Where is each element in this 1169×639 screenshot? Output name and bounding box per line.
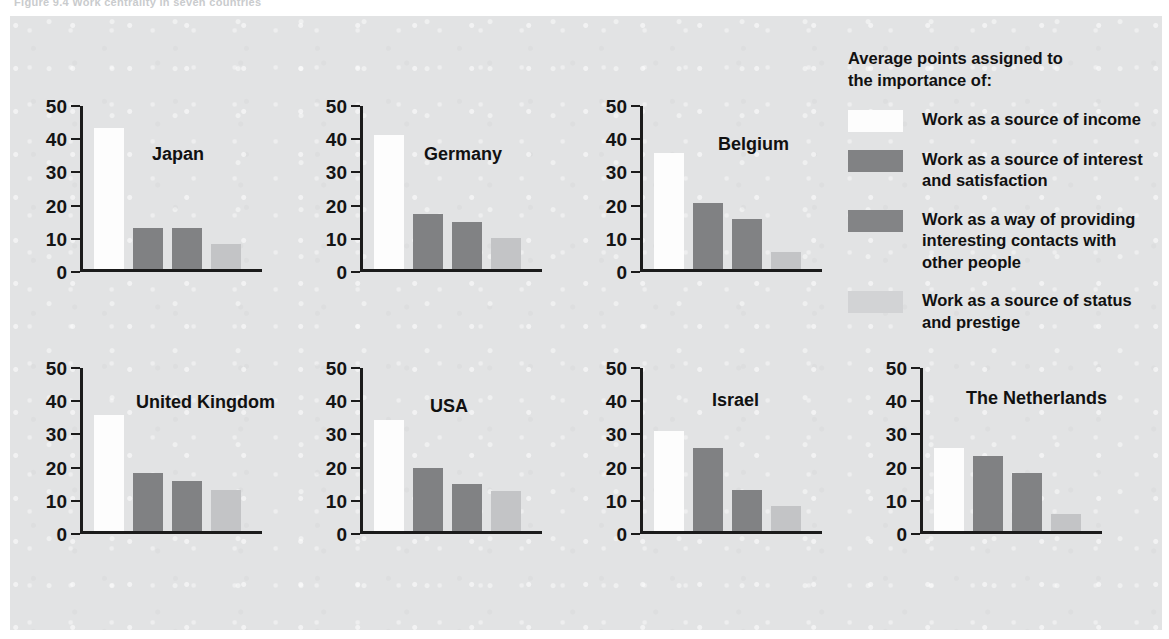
y-axis-tick — [351, 205, 360, 207]
y-axis-tick-label: 40 — [46, 130, 67, 149]
y-axis-tick — [631, 467, 640, 469]
bar — [693, 448, 723, 531]
y-axis-tick — [631, 171, 640, 173]
y-axis-tick — [351, 238, 360, 240]
figure-page: Figure 9.4 Work centrality in seven coun… — [0, 0, 1169, 639]
chart-panel: 01020304050Belgium — [586, 106, 826, 272]
bar — [491, 491, 521, 531]
y-axis-tick-label: 30 — [606, 163, 627, 182]
y-axis-tick — [71, 238, 80, 240]
y-axis-tick — [631, 105, 640, 107]
legend-item: Work as a source of status and prestige — [848, 290, 1158, 333]
y-axis-tick — [71, 105, 80, 107]
bar — [1012, 473, 1042, 531]
y-axis-tick-label: 10 — [326, 229, 347, 248]
y-axis — [80, 106, 83, 272]
bar — [211, 490, 241, 532]
y-axis-tick — [631, 138, 640, 140]
figure-plate: 01020304050Japan01020304050Germany010203… — [10, 16, 1162, 630]
y-axis-tick — [351, 138, 360, 140]
bar — [133, 473, 163, 531]
y-axis — [920, 368, 923, 534]
y-axis-tick-label: 30 — [46, 163, 67, 182]
legend-swatch-icon — [848, 210, 903, 232]
chart-panel: 01020304050Japan — [26, 106, 266, 272]
y-axis-tick-label: 0 — [336, 525, 347, 544]
y-axis-tick-label: 50 — [46, 359, 67, 378]
bar — [934, 448, 964, 531]
chart-panel: 01020304050Germany — [306, 106, 546, 272]
legend-item-label: Work as a way of providing interesting c… — [922, 209, 1135, 273]
legend-swatch-icon — [848, 110, 903, 132]
plot-area: 01020304050 — [80, 106, 262, 272]
y-axis-tick-label: 30 — [326, 163, 347, 182]
y-axis-tick-label: 40 — [326, 392, 347, 411]
y-axis-tick-label: 0 — [56, 263, 67, 282]
y-axis-tick-label: 30 — [326, 425, 347, 444]
y-axis-tick — [911, 433, 920, 435]
y-axis — [360, 368, 363, 534]
panel-title: Belgium — [718, 134, 789, 155]
y-axis-tick — [71, 400, 80, 402]
y-axis-tick-label: 50 — [326, 359, 347, 378]
y-axis-tick-label: 40 — [606, 130, 627, 149]
bar — [452, 222, 482, 269]
panel-title: Israel — [712, 390, 759, 411]
bar — [491, 238, 521, 269]
bar — [413, 214, 443, 269]
panel-title: United Kingdom — [136, 392, 275, 413]
legend-item-label: Work as a source of status and prestige — [922, 290, 1132, 333]
y-axis-tick — [71, 171, 80, 173]
legend-items: Work as a source of incomeWork as a sour… — [848, 109, 1158, 333]
y-axis-tick-label: 40 — [606, 392, 627, 411]
y-axis-tick — [71, 433, 80, 435]
y-axis-tick-label: 0 — [616, 263, 627, 282]
legend-item-label: Work as a source of interest and satisfa… — [922, 149, 1143, 192]
bar — [973, 456, 1003, 531]
y-axis-tick-label: 50 — [326, 97, 347, 116]
y-axis-tick-label: 20 — [46, 196, 67, 215]
legend-item-label: Work as a source of income — [922, 109, 1141, 130]
y-axis-tick-label: 50 — [606, 359, 627, 378]
y-axis-tick-label: 0 — [336, 263, 347, 282]
legend-item: Work as a source of income — [848, 109, 1158, 132]
bar — [654, 153, 684, 269]
figure-caption: Figure 9.4 Work centrality in seven coun… — [14, 0, 261, 8]
y-axis-tick-label: 0 — [616, 525, 627, 544]
legend-item: Work as a source of interest and satisfa… — [848, 149, 1158, 192]
y-axis-tick — [911, 500, 920, 502]
panel-title: USA — [430, 396, 468, 417]
y-axis — [640, 368, 643, 534]
y-axis-tick — [71, 467, 80, 469]
y-axis-tick — [631, 433, 640, 435]
plot-area: 01020304050 — [360, 106, 542, 272]
y-axis-tick — [71, 533, 80, 535]
legend-swatch-icon — [848, 150, 903, 172]
legend-item: Work as a way of providing interesting c… — [848, 209, 1158, 273]
bar — [374, 420, 404, 531]
x-axis — [920, 531, 1102, 534]
y-axis-tick-label: 20 — [606, 458, 627, 477]
bar-group — [374, 368, 521, 531]
x-axis — [80, 269, 262, 272]
panel-title: Japan — [152, 144, 204, 165]
y-axis-tick-label: 0 — [896, 525, 907, 544]
y-axis-tick-label: 30 — [886, 425, 907, 444]
chart-panel: 01020304050USA — [306, 368, 546, 534]
legend-swatch-icon — [848, 291, 903, 313]
y-axis-tick — [911, 533, 920, 535]
y-axis-tick — [351, 533, 360, 535]
y-axis-tick — [351, 367, 360, 369]
bar — [413, 468, 443, 531]
x-axis — [640, 531, 822, 534]
legend-title: Average points assigned to the importanc… — [848, 48, 1158, 92]
bar — [732, 219, 762, 269]
y-axis-tick — [911, 367, 920, 369]
bar — [771, 506, 801, 531]
plot-area: 01020304050 — [360, 368, 542, 534]
y-axis — [80, 368, 83, 534]
y-axis-tick — [631, 400, 640, 402]
y-axis-tick-label: 20 — [886, 458, 907, 477]
y-axis-tick — [351, 400, 360, 402]
y-axis-tick — [351, 500, 360, 502]
